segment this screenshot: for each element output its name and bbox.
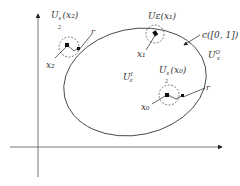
x1-marker	[152, 30, 158, 36]
label-r-top: r	[91, 27, 96, 36]
label-u-eps2-x2-frac: 2	[57, 24, 61, 30]
label-x2: x₂	[46, 60, 55, 70]
closed-curve	[54, 15, 217, 149]
x1-pointer	[146, 34, 156, 50]
x0-marker	[165, 93, 169, 97]
label-u-eps2-x0-frac: 2	[164, 78, 168, 84]
diagram-canvas: Uε(x₂) 2 Uε(x₁) c([0, 1]) UOε UIε Uε(x₀)…	[0, 0, 240, 186]
label-u-eps-x1: Uε(x₁)	[148, 11, 177, 21]
label-u-eps2-x2: Uε(x₂)	[51, 10, 79, 21]
x0-radius	[168, 95, 182, 99]
label-x0: x₀	[141, 102, 150, 112]
x2-marker	[65, 43, 69, 47]
label-outer-region: UOε	[208, 49, 221, 61]
label-curve: c([0, 1])	[202, 30, 239, 40]
x2-pointer	[55, 47, 66, 58]
label-r-bottom: r	[206, 83, 211, 92]
label-u-eps2-x0: Uε(x₀)	[159, 65, 187, 76]
label-inner-region: UIε	[123, 71, 134, 83]
label-x1: x₁	[137, 49, 146, 59]
